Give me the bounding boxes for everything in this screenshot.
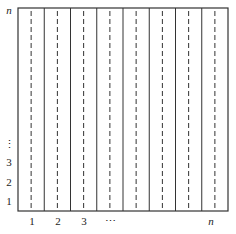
column-label: n (208, 216, 214, 227)
row-label: 2 (6, 177, 12, 188)
column-label: 2 (55, 216, 61, 227)
column-label: 1 (29, 216, 35, 227)
row-label: 1 (6, 196, 12, 207)
row-label: n (6, 5, 12, 16)
column-label: ⋯ (105, 216, 116, 227)
row-label: ⋮ (4, 139, 15, 150)
row-label: 3 (6, 157, 12, 168)
grid-lines (18, 8, 228, 211)
grid-diagram (0, 0, 236, 234)
column-label: 3 (81, 216, 87, 227)
